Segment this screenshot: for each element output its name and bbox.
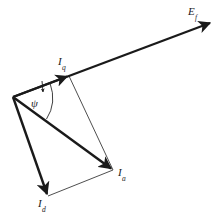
vector-label-iq: Iq xyxy=(58,56,65,70)
construction-line-iq-to-ia xyxy=(69,76,113,170)
vector-iq-line xyxy=(13,77,67,98)
vector-ia-line xyxy=(13,97,111,169)
construction-lines-group xyxy=(48,76,113,196)
vector-label-ef-base: E xyxy=(188,5,195,17)
angle-label-psi: ψ xyxy=(31,98,38,109)
vector-label-id: Id xyxy=(38,198,45,212)
angle-psi-arc xyxy=(47,83,53,119)
angle-psi-arrowhead xyxy=(42,81,43,92)
vector-label-ef: Ef xyxy=(188,6,197,20)
construction-line-id-to-ia xyxy=(48,170,113,196)
phasor-diagram-figure: Ef Iq Ia Id ψ xyxy=(0,0,222,219)
vector-label-ef-sub: f xyxy=(195,13,197,22)
vector-label-iq-sub: q xyxy=(62,63,66,72)
vector-label-ia-sub: a xyxy=(122,174,126,183)
vectors-group xyxy=(13,23,210,194)
vector-label-ia: Ia xyxy=(118,167,125,181)
vector-label-id-sub: d xyxy=(42,205,46,214)
vector-id-line xyxy=(13,97,47,194)
phasor-diagram-canvas xyxy=(0,0,222,219)
